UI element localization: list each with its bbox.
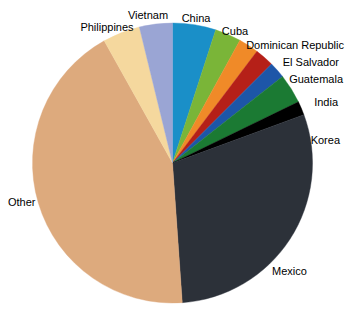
- pie-chart: China Cuba Dominican Republic El Salvado…: [0, 0, 346, 313]
- pie-label-guatemala: Guatemala: [289, 73, 343, 85]
- pie-label-mexico: Mexico: [272, 265, 307, 277]
- pie-label-el-salvador: El Salvador: [283, 56, 339, 68]
- pie-label-cuba: Cuba: [222, 25, 248, 37]
- pie-label-china: China: [182, 12, 211, 24]
- pie-label-other: Other: [8, 196, 36, 208]
- pie-label-india: India: [314, 96, 338, 108]
- pie-label-philippines: Philippines: [80, 21, 133, 33]
- pie-label-vietnam: Vietnam: [128, 9, 168, 21]
- pie-label-dominican-republic: Dominican Republic: [246, 39, 344, 51]
- pie-slice-group: [32, 23, 312, 303]
- pie-label-korea: Korea: [311, 134, 340, 146]
